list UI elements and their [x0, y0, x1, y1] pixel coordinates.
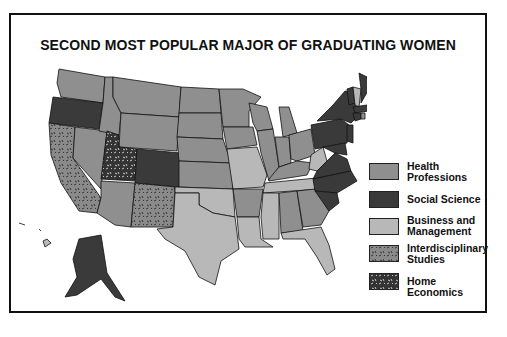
legend-item-interdisc: Interdisciplinary Studies [363, 243, 488, 271]
us-map [17, 63, 367, 313]
swatch-homeec [369, 273, 399, 290]
state-nd [179, 87, 221, 113]
state-mi [279, 107, 297, 137]
legend-item-homeec: Home Economics [363, 271, 488, 295]
legend-label-line: Social Science [407, 194, 481, 205]
state-hi [19, 223, 51, 247]
legend-label-health: Health Professions [407, 161, 467, 183]
chart-title: SECOND MOST POPULAR MAJOR OF GRADUATING … [11, 37, 485, 53]
state-mt [113, 77, 181, 117]
swatch-business [369, 218, 399, 235]
state-fl [281, 227, 335, 275]
state-wa [57, 69, 105, 103]
state-ar [233, 189, 263, 217]
state-nj [347, 125, 353, 143]
legend-label-line: Home Economics [407, 276, 488, 298]
state-ks [179, 161, 233, 189]
legend-label-line: Studies [407, 254, 488, 265]
state-sd [177, 113, 223, 139]
state-ak [65, 235, 125, 301]
legend-label-line: Management [407, 226, 475, 237]
state-az [97, 181, 135, 227]
legend-label-interdisc: Interdisciplinary Studies [407, 243, 488, 265]
swatch-social [369, 191, 399, 208]
legend-label-social: Social Science [407, 194, 481, 205]
legend: Health Professions Social Science Busine… [363, 161, 488, 295]
chart-frame: SECOND MOST POPULAR MAJOR OF GRADUATING … [9, 13, 487, 313]
state-wy [119, 113, 179, 151]
state-co [135, 149, 181, 187]
state-ms [261, 193, 279, 239]
state-ri [361, 113, 365, 119]
state-ne [177, 137, 231, 163]
state-nm [131, 183, 175, 227]
legend-label-line: Professions [407, 172, 467, 183]
swatch-interdisc [369, 245, 399, 262]
legend-label-business: Business and Management [407, 215, 475, 237]
legend-item-business: Business and Management [363, 215, 488, 243]
state-ia [223, 127, 257, 149]
legend-item-health: Health Professions [363, 161, 488, 191]
legend-item-social: Social Science [363, 191, 488, 215]
swatch-health [369, 163, 399, 180]
legend-label-homeec: Home Economics [407, 276, 488, 298]
